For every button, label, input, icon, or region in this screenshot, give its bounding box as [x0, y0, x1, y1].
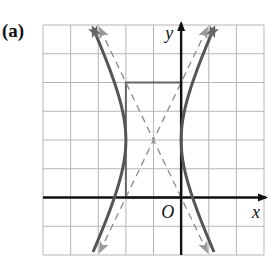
x-axis-label: x: [251, 202, 260, 222]
hyperbola-plot: yxO: [0, 0, 274, 265]
origin-label: O: [161, 202, 174, 222]
y-axis-label: y: [163, 23, 173, 43]
